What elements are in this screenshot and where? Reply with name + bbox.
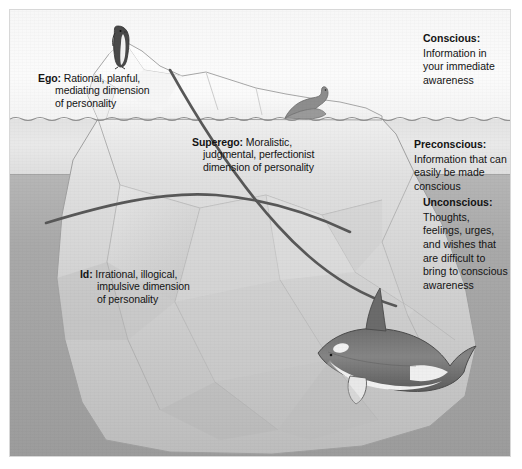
label-ego-head: Ego: bbox=[38, 72, 61, 84]
label-preconscious: Preconscious: Information that can easil… bbox=[414, 138, 510, 194]
iceberg-diagram: Ego: Rational, planful, mediating dimens… bbox=[10, 10, 510, 456]
label-conscious-line3: awareness bbox=[423, 74, 474, 86]
label-unconscious-line2: feelings, urges, bbox=[423, 224, 494, 236]
label-ego-line2: mediating dimension bbox=[38, 84, 213, 96]
label-conscious: Conscious: Information in your immediate… bbox=[423, 32, 510, 88]
label-id-line3: of personality bbox=[80, 293, 270, 305]
label-superego-head: Superego: bbox=[192, 136, 243, 148]
label-superego-line3: dimension of personality bbox=[192, 161, 402, 173]
label-id-line1: Irrational, illogical, bbox=[95, 268, 177, 280]
label-unconscious-line4: are difficult to bbox=[423, 252, 485, 264]
label-superego-line2: judgmental, perfectionist bbox=[192, 148, 402, 160]
label-unconscious-line3: and wishes that bbox=[423, 238, 496, 250]
label-ego: Ego: Rational, planful, mediating dimens… bbox=[38, 72, 213, 109]
label-id-line2: impulsive dimension bbox=[80, 280, 270, 292]
label-unconscious-head: Unconscious: bbox=[423, 196, 510, 210]
label-conscious-head: Conscious: bbox=[423, 32, 510, 46]
figure-canvas: Ego: Rational, planful, mediating dimens… bbox=[0, 0, 522, 469]
label-conscious-line2: your immediate bbox=[423, 60, 495, 72]
label-id-head: Id: bbox=[80, 268, 93, 280]
label-unconscious-line5: bring to conscious bbox=[423, 265, 508, 277]
label-unconscious-line6: awareness bbox=[423, 279, 474, 291]
label-unconscious-line1: Thoughts, bbox=[423, 211, 470, 223]
label-id: Id: Irrational, illogical, impulsive dim… bbox=[80, 268, 270, 305]
label-preconscious-head: Preconscious: bbox=[414, 138, 510, 152]
label-superego: Superego: Moralistic, judgmental, perfec… bbox=[192, 136, 402, 173]
label-unconscious: Unconscious: Thoughts, feelings, urges, … bbox=[423, 196, 510, 292]
label-ego-line1: Rational, planful, bbox=[64, 72, 140, 84]
label-ego-line3: of personality bbox=[38, 97, 213, 109]
label-preconscious-line2: easily be made conscious bbox=[414, 166, 485, 192]
label-preconscious-line1: Information that can bbox=[414, 153, 507, 165]
label-superego-line1: Moralistic, bbox=[246, 136, 292, 148]
label-conscious-line1: Information in bbox=[423, 47, 487, 59]
